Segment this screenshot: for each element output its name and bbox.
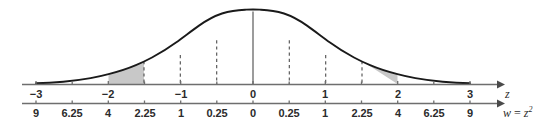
w-axis-label-equals: = — [514, 106, 521, 120]
w-axis-label: w = z2 — [503, 107, 532, 119]
w-tick-label-4: 1 — [178, 107, 184, 119]
z-tick-label-0: 0 — [250, 88, 256, 100]
w-tick-label-3: 2.25 — [134, 107, 155, 119]
z-tick-label-3: 3 — [467, 88, 473, 100]
w-tick-label-8: 1 — [322, 107, 328, 119]
z-tick-label-neg1: −1 — [175, 88, 187, 100]
z-tick-label-2: 2 — [395, 88, 401, 100]
z-tick-label-neg3: −3 — [30, 88, 42, 100]
w-tick-label-9: 2.25 — [351, 107, 372, 119]
w-tick-label-2: 4 — [105, 107, 111, 119]
w-tick-label-11: 6.25 — [423, 107, 444, 119]
z-axis-arrowhead — [497, 81, 505, 89]
w-tick-label-5: 0.25 — [206, 107, 227, 119]
w-tick-label-12: 9 — [467, 107, 473, 119]
w-tick-label-7: 0.25 — [278, 107, 299, 119]
plot-canvas — [0, 0, 547, 124]
w-tick-label-1: 6.25 — [61, 107, 82, 119]
w-tick-label-6: 0 — [250, 107, 256, 119]
normal-curve-figure: −3 −2 −1 0 1 2 3 9 6.25 4 2.25 1 0.25 0 … — [0, 0, 547, 124]
z-axis-label: z — [505, 88, 510, 100]
z-tick-label-1: 1 — [322, 88, 328, 100]
w-tick-label-10: 4 — [395, 107, 401, 119]
w-tick-label-0: 9 — [33, 107, 39, 119]
z-tick-label-neg2: −2 — [102, 88, 114, 100]
w-axis-label-exponent: 2 — [528, 105, 532, 114]
z-axis — [22, 81, 505, 89]
z-axis-label-text: z — [505, 87, 510, 101]
w-axis-label-var: w — [503, 106, 511, 120]
